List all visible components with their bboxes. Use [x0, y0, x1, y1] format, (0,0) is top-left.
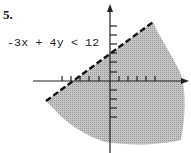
inequality-graph [0, 0, 191, 153]
x-axis-arrow-icon [181, 78, 189, 84]
inequality-label: -3x + 4y < 12 [7, 36, 99, 49]
y-axis-arrow-icon [107, 4, 113, 12]
